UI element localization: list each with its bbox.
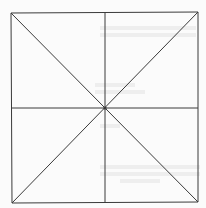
scanned-page (0, 0, 206, 208)
top-edge-line (11, 12, 198, 13)
square-diagram (0, 0, 206, 208)
center-point (103, 106, 106, 109)
